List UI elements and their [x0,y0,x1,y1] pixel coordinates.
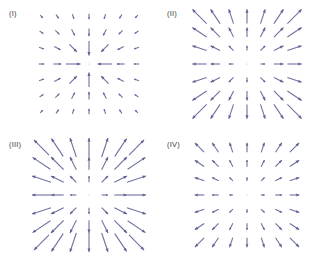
vector-arrow [246,160,248,167]
vector-arrow [70,233,77,252]
vector-arrow [290,143,299,152]
vector-arrow [128,221,146,233]
vector-arrow [51,176,64,182]
arrowhead [296,210,300,213]
vector-arrow [56,15,59,19]
arrowhead [263,9,266,13]
vector-arrow [228,9,233,23]
vector-arrow [32,208,51,215]
vector-arrow [98,62,113,65]
panel-label-4: (IV) [167,140,180,149]
vector-arrow [246,238,249,248]
arrowhead [88,109,90,111]
vector-arrow [127,208,146,215]
vector-arrow [119,110,122,114]
vector-arrow [290,224,299,230]
vector-arrow [212,209,219,212]
vector-arrow [89,195,90,196]
arrowhead [124,193,127,196]
vector-arrow [246,223,248,230]
arrowhead [211,63,214,66]
vector-arrow [102,138,109,157]
vector-arrow [276,238,282,247]
arrowhead [51,193,54,196]
vector-arrow [51,193,64,196]
arrowhead [77,62,80,65]
vector-arrow [260,91,265,101]
vector-arrow [195,209,205,213]
vector-arrow [195,160,204,166]
arrowhead [246,177,248,179]
vector-arrow [119,94,123,98]
arrowhead [228,9,231,13]
vector-arrow [290,194,300,197]
vector-arrow [228,104,233,118]
arrowhead [263,115,266,119]
vector-arrow [261,209,265,213]
vector-arrow [192,62,206,65]
vector-arrow [211,91,221,101]
vector-arrow [118,78,124,81]
vector-arrow [70,220,76,233]
arrowhead [195,194,198,197]
vector-arrow [39,63,44,65]
vector-field-figure: (I) (II) (III) (IV) [0,0,316,261]
arrowhead [296,194,299,197]
vector-arrow [195,194,205,197]
vector-arrow [40,31,44,34]
vector-arrow [135,15,138,18]
vector-arrow [66,62,81,65]
vector-arrow [229,177,233,181]
vector-arrow [72,29,75,35]
vector-arrow [135,31,139,34]
vector-arrow [102,194,108,196]
vector-arrow [195,238,204,247]
quiver-plot-3 [32,138,146,252]
vector-arrow [287,45,301,50]
vector-arrow [127,176,146,183]
vector-arrow [114,157,127,170]
vector-arrow [40,94,44,97]
vector-arrow [275,194,282,196]
vector-arrow [87,220,90,233]
arrowhead [87,230,90,233]
vector-arrow [276,143,282,152]
vector-arrow [211,104,221,118]
vector-arrow [229,63,234,65]
vector-arrow [211,63,221,66]
vector-arrow [127,193,146,196]
vector-arrow [192,45,206,50]
arrowhead [263,63,265,65]
vector-arrow [246,177,248,181]
arrowhead [246,80,248,82]
vector-arrow [212,194,219,196]
quiver-plot-1 [32,7,146,121]
vector-arrow [54,47,60,50]
vector-arrow [103,93,106,99]
arrowhead [229,143,232,147]
vector-arrow [274,77,284,82]
vector-arrow [212,223,219,230]
vector-arrow [287,104,301,118]
arrowhead [296,177,300,180]
vector-arrow [245,104,248,118]
arrowhead [142,211,146,214]
arrowhead [143,193,146,196]
vector-arrow [70,208,76,214]
vector-arrow [261,143,265,153]
arrowhead [87,52,90,55]
vector-arrow [114,176,127,182]
vector-arrow [274,9,284,23]
arrowhead [142,176,146,179]
vector-arrow [229,91,234,101]
vector-arrow [274,63,284,66]
vector-arrow [229,77,234,82]
vector-arrow [104,14,106,19]
arrowhead [246,28,249,31]
arrowhead [192,45,196,48]
vector-arrow [247,195,248,196]
vector-arrow [275,160,282,167]
vector-arrow [40,110,43,113]
arrowhead [32,193,35,196]
vector-arrow [290,160,299,166]
